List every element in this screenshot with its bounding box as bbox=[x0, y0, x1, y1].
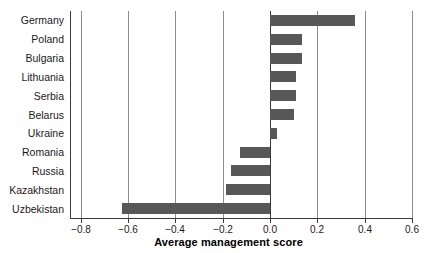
category-label: Romania bbox=[0, 146, 64, 158]
y-axis-line bbox=[70, 11, 71, 218]
category-label: Bulgaria bbox=[0, 52, 64, 64]
tick-label: −0.6 bbox=[108, 224, 148, 236]
gridline bbox=[412, 11, 413, 218]
category-label: Lithuania bbox=[0, 71, 64, 83]
bar-chart: −0.8−0.6−0.4−0.20.00.20.40.6 GermanyPola… bbox=[0, 0, 445, 253]
x-axis-title: Average management score bbox=[0, 236, 445, 248]
tick-mark bbox=[270, 218, 271, 223]
gridline bbox=[223, 11, 224, 218]
tick-label: −0.8 bbox=[61, 224, 101, 236]
tick-label: 0.4 bbox=[345, 224, 385, 236]
tick-mark bbox=[317, 218, 318, 223]
category-label: Kazakhstan bbox=[0, 184, 64, 196]
gridline bbox=[128, 11, 129, 218]
tick-mark bbox=[365, 218, 366, 223]
bar bbox=[240, 147, 270, 158]
bar bbox=[270, 90, 296, 101]
tick-label: −0.2 bbox=[203, 224, 243, 236]
gridline bbox=[175, 11, 176, 218]
bar bbox=[270, 15, 355, 26]
category-label: Uzbekistan bbox=[0, 203, 64, 215]
gridline bbox=[81, 11, 82, 218]
tick-mark bbox=[175, 218, 176, 223]
gridline bbox=[365, 11, 366, 218]
tick-label: 0.0 bbox=[250, 224, 290, 236]
bar bbox=[270, 71, 296, 82]
tick-mark bbox=[128, 218, 129, 223]
category-label: Serbia bbox=[0, 90, 64, 102]
tick-label: 0.6 bbox=[392, 224, 432, 236]
category-label: Ukraine bbox=[0, 127, 64, 139]
gridline bbox=[317, 11, 318, 218]
tick-mark bbox=[81, 218, 82, 223]
bar bbox=[270, 34, 302, 45]
tick-mark bbox=[412, 218, 413, 223]
tick-mark bbox=[223, 218, 224, 223]
bar bbox=[270, 128, 277, 139]
category-label: Poland bbox=[0, 33, 64, 45]
x-axis-line bbox=[70, 218, 412, 219]
tick-label: 0.2 bbox=[297, 224, 337, 236]
bar bbox=[226, 184, 270, 195]
bar bbox=[122, 203, 270, 214]
category-label: Russia bbox=[0, 165, 64, 177]
x-axis-title-text: Average management score bbox=[154, 236, 303, 248]
bar bbox=[270, 53, 302, 64]
bar bbox=[231, 165, 270, 176]
tick-label: −0.4 bbox=[155, 224, 195, 236]
category-label: Belarus bbox=[0, 109, 64, 121]
bar bbox=[270, 109, 294, 120]
category-label: Germany bbox=[0, 14, 64, 26]
